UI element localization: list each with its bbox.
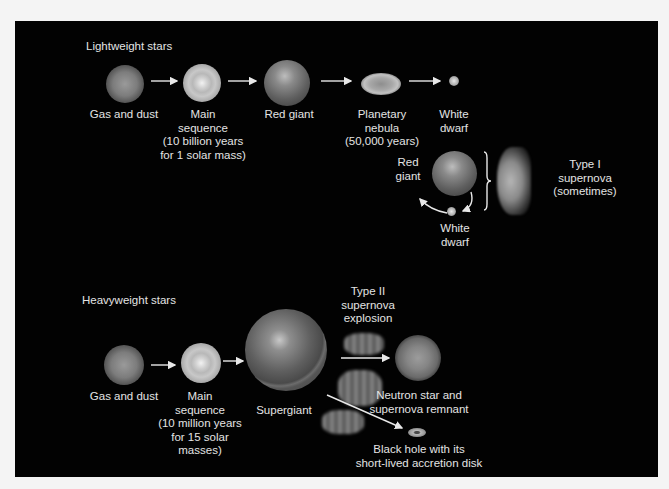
black-hole-accretion-disk [408, 428, 426, 437]
label-supergiant: Supergiant [256, 404, 312, 418]
gas-cloud-heavy [104, 345, 144, 385]
binary-red-giant [432, 151, 477, 196]
label-planetary-nebula: Planetary nebula (50,000 years) [345, 108, 419, 149]
main-sequence-star-light [183, 64, 221, 102]
neutron-star-remnant [395, 335, 441, 381]
planetary-nebula [361, 73, 401, 95]
label-neutron-star: Neutron star and supernova remnant [369, 389, 468, 416]
heavyweight-heading: Heavyweight stars [82, 294, 176, 307]
label-type-ii-supernova: Type II supernova explosion [341, 285, 395, 326]
supernova-debris-bottom [322, 410, 364, 434]
label-white-dwarf: White dwarf [439, 108, 468, 135]
label-red-giant: Red giant [264, 108, 313, 122]
label-type-i-supernova: Type I supernova (sometimes) [553, 158, 616, 199]
gas-cloud-light [106, 65, 144, 103]
type-i-supernova-cloud [497, 147, 531, 215]
white-dwarf-star [449, 76, 459, 86]
lightweight-heading: Lightweight stars [86, 40, 172, 53]
supernova-debris-top [344, 333, 384, 355]
label-gas-dust-heavy: Gas and dust [90, 390, 158, 404]
label-gas-dust-light: Gas and dust [90, 108, 158, 122]
main-sequence-star-heavy [181, 343, 221, 383]
label-main-sequence-heavy: Main sequence (10 million years for 15 s… [158, 390, 242, 458]
label-binary-white-dwarf: White dwarf [440, 222, 469, 249]
label-main-sequence-light: Main sequence (10 billion years for 1 so… [160, 108, 246, 162]
red-giant-star [264, 60, 310, 106]
label-binary-red-giant: Red giant [396, 156, 421, 183]
label-black-hole: Black hole with its short-lived accretio… [356, 443, 483, 470]
binary-white-dwarf [447, 207, 456, 216]
supergiant-star [245, 309, 327, 391]
